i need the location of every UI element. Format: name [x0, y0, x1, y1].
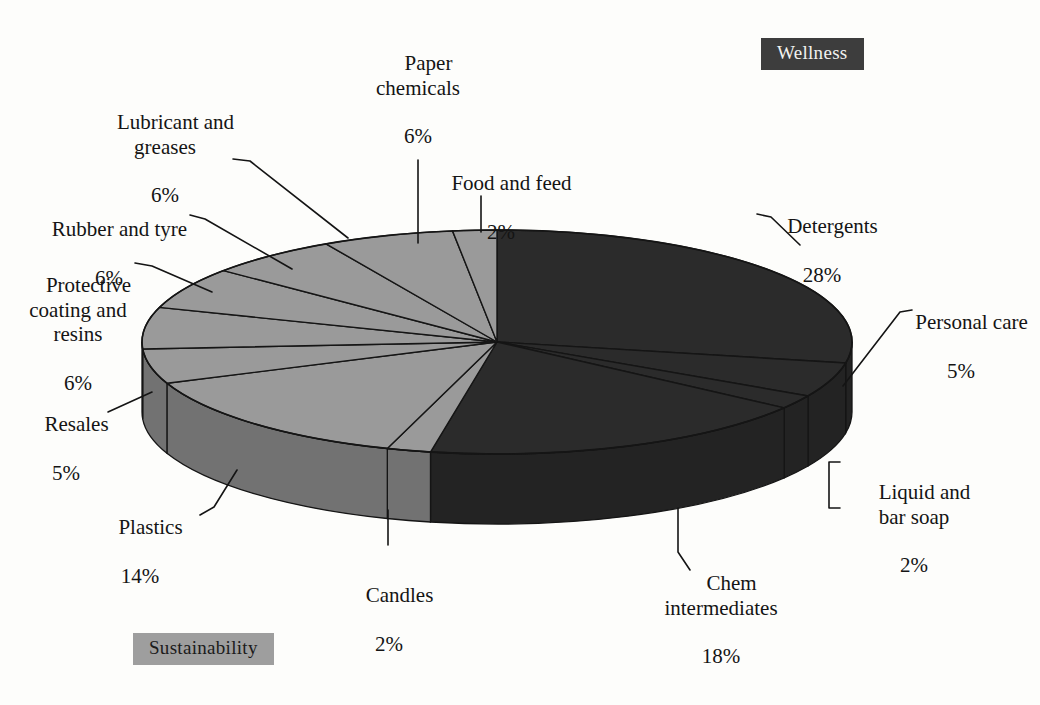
- label-paper-chemicals-pct: 6%: [358, 124, 478, 148]
- tag-wellness-label: Wellness: [777, 42, 848, 64]
- label-rubber-and-tyre-name: Rubber and tyre: [52, 217, 187, 241]
- label-candles-name: Candles: [366, 583, 434, 607]
- label-paper-chemicals-name: Paper chemicals: [376, 51, 460, 99]
- label-food-and-feed-name: Food and feed: [451, 171, 571, 195]
- label-resales-name: Resales: [44, 412, 108, 436]
- tag-wellness: Wellness: [761, 38, 864, 70]
- label-lubricant-greases-name: Lubricant and greases: [117, 110, 234, 158]
- label-personal-care-name: Personal care: [915, 310, 1028, 334]
- pie-side-protective-coating-and-resins: [142, 342, 143, 419]
- label-chem-intermediates-name: Chem intermediates: [664, 571, 777, 619]
- label-resales-pct: 5%: [22, 461, 110, 485]
- label-liquid-bar-soap-pct: 2%: [844, 553, 984, 577]
- label-detergents: Detergents 28%: [742, 190, 902, 336]
- label-candles: Candles 2%: [339, 559, 439, 705]
- label-protective-coating-name: Protective coating and resins: [29, 273, 131, 346]
- label-chem-intermediates: Chem intermediates 18%: [621, 547, 821, 705]
- leader-liquid-bar-soap: [829, 462, 840, 508]
- label-personal-care: Personal care 5%: [881, 286, 1040, 432]
- label-personal-care-pct: 5%: [881, 359, 1040, 383]
- pie-chart-figure: Wellness Sustainability Paper chemicals …: [0, 0, 1040, 705]
- label-plastics-pct: 14%: [92, 564, 188, 588]
- tag-sustainability: Sustainability: [133, 633, 274, 665]
- label-detergents-name: Detergents: [787, 214, 878, 238]
- label-candles-pct: 2%: [339, 632, 439, 656]
- label-food-and-feed-pct: 2%: [410, 220, 592, 244]
- label-plastics: Plastics 14%: [92, 491, 188, 637]
- label-plastics-name: Plastics: [118, 515, 182, 539]
- label-chem-intermediates-pct: 18%: [621, 644, 821, 668]
- pie-side-liquid-and-bar-soap: [784, 396, 808, 478]
- pie-side-candles: [387, 449, 430, 522]
- label-food-and-feed: Food and feed 2%: [410, 147, 592, 293]
- label-detergents-pct: 28%: [742, 263, 902, 287]
- tag-sustainability-label: Sustainability: [149, 637, 258, 659]
- label-liquid-bar-soap: Liquid and bar soap 2%: [844, 456, 984, 627]
- label-liquid-bar-soap-name: Liquid and bar soap: [879, 480, 971, 528]
